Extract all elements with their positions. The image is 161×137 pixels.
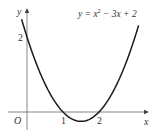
equation-label: y = x2 − 3x + 2 [77, 8, 137, 19]
parabola-graph: y x O 1 2 2 y = x2 − 3x + 2 [0, 0, 161, 137]
x-tick-1: 1 [61, 115, 66, 126]
y-tick-2: 2 [18, 32, 23, 43]
parabola-curve [22, 19, 139, 121]
y-axis-label: y [16, 6, 22, 17]
x-axis-label: x [143, 116, 149, 127]
origin-label: O [14, 115, 21, 126]
x-tick-2: 2 [97, 115, 102, 126]
